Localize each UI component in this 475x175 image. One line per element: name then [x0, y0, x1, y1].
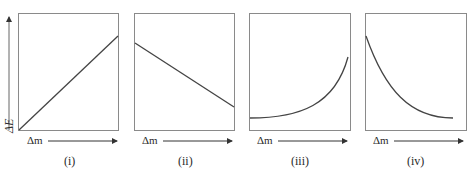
panel-iv-x-label: Δm — [373, 134, 389, 146]
panel-iv-frame — [366, 14, 467, 131]
panel-i-curve — [19, 36, 118, 130]
panel-iv — [366, 14, 467, 142]
panel-ii-x-label: Δm — [142, 134, 158, 146]
panel-ii-label: (ii) — [178, 154, 193, 169]
panel-i-label: (i) — [64, 154, 75, 169]
panel-i — [19, 14, 119, 142]
panel-iii-curve — [250, 57, 348, 118]
panel-i-x-label: Δm — [27, 134, 43, 146]
panel-iii-x-label: Δm — [257, 134, 273, 146]
figure-canvas — [0, 0, 475, 175]
panel-iii-frame — [250, 14, 351, 131]
panel-ii-frame — [135, 14, 235, 131]
panel-i-frame — [19, 14, 119, 131]
y-axis-label: ΔE — [2, 119, 17, 133]
panel-iii — [250, 14, 351, 142]
panel-ii-curve — [135, 43, 234, 107]
panel-ii — [135, 14, 235, 142]
panel-iii-label: (iii) — [291, 154, 309, 169]
panel-iv-label: (iv) — [407, 154, 424, 169]
panel-iv-curve — [366, 36, 453, 118]
